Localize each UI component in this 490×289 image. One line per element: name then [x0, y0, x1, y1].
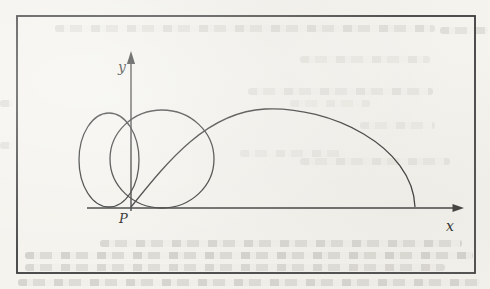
y-axis-arrowhead-icon: [127, 51, 135, 64]
origin-point-label: P: [118, 211, 128, 226]
figure-border: [17, 16, 475, 273]
y-axis-label: y: [117, 59, 127, 75]
small-ellipse-curve: [79, 113, 139, 207]
math-figure: x y P: [0, 0, 490, 289]
large-ellipse-arc-curve: [131, 109, 415, 207]
circle-curve: [110, 110, 214, 208]
scanned-page: x y P: [0, 0, 490, 289]
x-axis-label: x: [446, 218, 454, 234]
x-axis-arrowhead-icon: [453, 204, 465, 212]
